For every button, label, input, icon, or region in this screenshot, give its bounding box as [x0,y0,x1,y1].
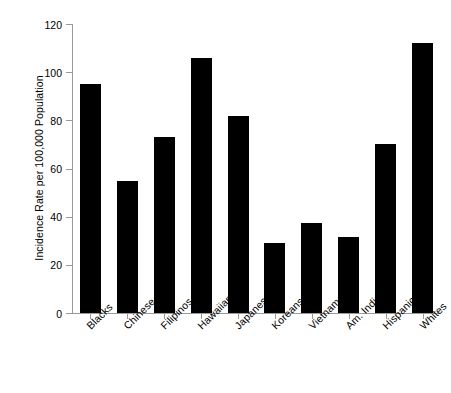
y-tick-label: 60 [50,163,62,175]
y-tick-label: 120 [44,19,62,31]
y-tick: 40 [66,217,72,218]
bar [301,223,322,313]
bar [154,137,175,313]
y-tick-label: 20 [50,259,62,271]
bar-chart: Incidence Rate per 100,000 Population 02… [0,0,451,393]
bar [117,181,138,313]
y-tick-label: 40 [50,211,62,223]
y-tick: 100 [66,72,72,73]
plot-area: 020406080100120 BlacksChineseFilipinosHa… [72,24,441,313]
bar [80,84,101,313]
y-tick: 20 [66,265,72,266]
y-tick: 120 [66,24,72,25]
bar [191,58,212,313]
y-tick: 60 [66,169,72,170]
y-tick-label: 80 [50,115,62,127]
y-tick-label: 0 [56,308,62,320]
y-tick-label: 100 [44,67,62,79]
bar [412,43,433,313]
y-tick: 0 [66,313,72,314]
y-tick: 80 [66,120,72,121]
y-axis-line [72,24,73,313]
bar [228,116,249,313]
